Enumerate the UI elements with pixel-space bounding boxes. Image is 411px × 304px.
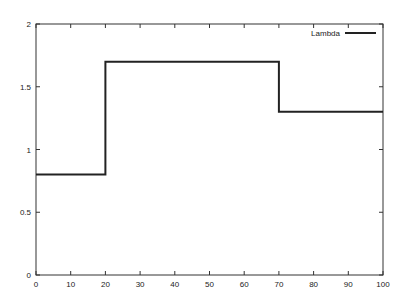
y-axis: 00.511.52 (20, 20, 383, 280)
y-tick-label: 0 (27, 271, 32, 280)
y-tick-label: 0.5 (20, 208, 32, 217)
legend: Lambda (311, 29, 376, 38)
x-tick-label: 70 (274, 280, 283, 289)
step-chart: 0102030405060708090100 00.511.52 Lambda (0, 0, 411, 304)
x-tick-label: 50 (205, 280, 214, 289)
x-tick-label: 90 (344, 280, 353, 289)
x-tick-label: 40 (170, 280, 179, 289)
x-tick-label: 100 (376, 280, 390, 289)
x-axis: 0102030405060708090100 (34, 24, 390, 289)
x-tick-label: 30 (136, 280, 145, 289)
y-tick-label: 1.5 (20, 83, 32, 92)
x-tick-label: 0 (34, 280, 39, 289)
legend-label: Lambda (311, 29, 340, 38)
x-tick-label: 60 (240, 280, 249, 289)
x-tick-label: 20 (101, 280, 110, 289)
x-tick-label: 10 (66, 280, 75, 289)
y-tick-label: 2 (27, 20, 32, 29)
series-lines (36, 62, 383, 175)
x-tick-label: 80 (309, 280, 318, 289)
y-tick-label: 1 (27, 146, 32, 155)
series-line (36, 62, 383, 175)
